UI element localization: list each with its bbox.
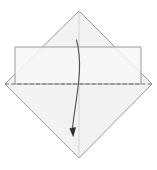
origami-diagram-root: Origami fold step diagram A square sheet…: [0, 0, 157, 170]
flap-band-rectangle: [15, 47, 141, 84]
origami-diagram-canvas: Origami fold step diagram A square sheet…: [0, 0, 157, 170]
